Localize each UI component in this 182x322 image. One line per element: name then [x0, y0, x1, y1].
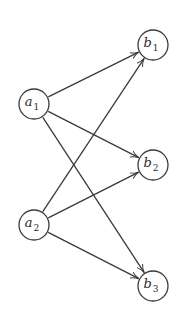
node-label-subscript: 2 [34, 223, 40, 233]
node-a1: a1 [19, 89, 49, 119]
node-b1: b1 [138, 30, 168, 60]
bipartite-graph: a1a2b1b2b3 [0, 0, 182, 322]
node-label-base: b [143, 276, 151, 291]
edge-a2-to-b1 [43, 58, 144, 211]
node-label-subscript: 1 [153, 43, 159, 53]
edge-a2-to-b2 [48, 172, 138, 218]
node-label-subscript: 2 [153, 163, 159, 173]
node-label-subscript: 3 [153, 284, 159, 294]
node-label-base: b [143, 155, 151, 170]
node-b2: b2 [138, 150, 168, 180]
nodes: a1a2b1b2b3 [19, 30, 168, 301]
edge-a2-to-b3 [48, 232, 139, 278]
edge-a1-to-b1 [48, 52, 138, 97]
node-a2: a2 [19, 210, 49, 240]
node-label-base: a [25, 94, 33, 109]
edges [43, 52, 144, 279]
node-label-base: a [25, 215, 33, 230]
node-label-subscript: 1 [34, 102, 40, 112]
node-label-base: b [143, 35, 151, 50]
node-b3: b3 [138, 271, 168, 301]
